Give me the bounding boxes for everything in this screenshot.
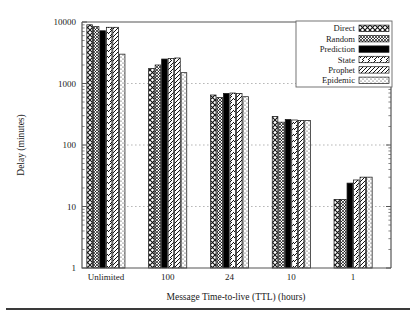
legend-swatch [359,25,389,31]
y-tick-label: 1 [72,263,77,273]
legend: DirectRandomPredictionStateProphetEpidem… [296,21,392,87]
y-tick-label: 1000 [58,79,77,89]
bar [93,27,99,268]
bar [119,54,125,268]
bar [210,95,216,268]
bar [243,97,249,268]
y-tick-label: 10 [67,202,77,212]
bar [298,121,304,268]
bar [181,73,187,268]
bar [149,69,155,268]
chart-figure: 110100100010000 Unlimited10024101 Delay … [0,0,416,318]
bar [360,177,366,268]
bar [272,117,278,268]
legend-label: Prediction [320,44,356,54]
bar [230,93,236,268]
legend-swatch [359,67,389,73]
bar [113,27,119,268]
bar-chart-svg: 110100100010000 Unlimited10024101 Delay … [0,0,416,318]
x-tick-label: 24 [225,272,235,282]
bar [162,59,168,268]
legend-label: Epidemic [322,75,355,85]
bar [347,183,353,268]
bar [305,121,311,268]
legend-swatch [359,77,389,83]
bar [168,59,174,269]
legend-label: Direct [334,23,356,33]
bar [236,93,242,268]
bar [155,65,161,268]
bar [354,180,360,268]
bar [223,93,229,268]
bar [106,27,112,268]
bar [100,31,106,268]
legend-label: Prophet [328,65,355,75]
y-tick-label: 10000 [54,17,77,27]
bar [285,119,291,268]
bar [341,199,347,268]
x-axis-label: Message Time-to-live (TTL) (hours) [166,292,305,303]
bar [217,98,223,268]
legend-label: Random [326,34,355,44]
y-axis-label: Delay (minutes) [16,114,27,175]
x-tick-label: 10 [287,272,297,282]
bar [292,120,298,268]
bar [367,177,373,268]
x-tick-label: 1 [351,272,356,282]
legend-swatch [359,56,389,62]
bar [279,122,285,268]
legend-swatch [359,46,389,52]
legend-label: State [338,55,355,65]
y-tick-label: 100 [63,140,77,150]
bar [334,199,340,268]
bar [175,58,181,268]
legend-swatch [359,36,389,42]
x-tick-label: 100 [161,272,175,282]
bar [87,25,93,268]
x-tick-label: Unlimited [88,272,125,282]
